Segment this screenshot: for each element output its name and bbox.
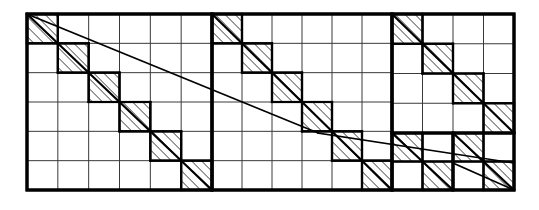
figure-background (0, 0, 539, 210)
figure-root (0, 0, 539, 210)
staircase-grid-figure (0, 0, 539, 210)
